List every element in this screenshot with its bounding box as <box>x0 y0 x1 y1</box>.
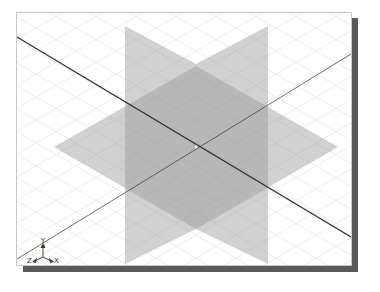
triad-label-z: Z <box>27 257 32 265</box>
graphics-viewport[interactable]: Y Z X <box>16 12 352 266</box>
triad-label-x: X <box>54 257 59 265</box>
scene-canvas[interactable] <box>17 13 352 266</box>
triad-label-y: Y <box>41 237 45 245</box>
origin-point <box>194 145 198 149</box>
